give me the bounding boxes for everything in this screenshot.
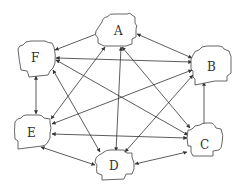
- node-b-label: B: [207, 60, 216, 74]
- edge-c-d: [135, 152, 187, 164]
- edge-f-b: [56, 58, 192, 62]
- node-c-label: C: [200, 138, 209, 152]
- edges: [36, 33, 204, 165]
- edge-a-b: [137, 34, 192, 58]
- node-e-label: E: [27, 126, 36, 140]
- node-e: E: [15, 115, 52, 149]
- node-d: D: [95, 150, 134, 180]
- network-diagram: A B C D E F: [0, 0, 242, 191]
- node-c: C: [187, 123, 223, 156]
- edge-b-d: [125, 75, 193, 152]
- edge-b-e: [52, 70, 192, 124]
- node-b: B: [191, 46, 231, 85]
- edge-d-e: [41, 147, 95, 165]
- edge-f-d: [53, 70, 100, 152]
- node-f-label: F: [31, 51, 39, 65]
- edge-f-c: [56, 60, 188, 135]
- node-a-label: A: [113, 24, 123, 38]
- edge-c-e: [52, 134, 187, 138]
- node-a: A: [95, 13, 136, 46]
- node-d-label: D: [109, 159, 119, 173]
- node-f: F: [18, 41, 55, 77]
- edge-a-c: [122, 47, 190, 128]
- edge-a-f: [55, 33, 99, 50]
